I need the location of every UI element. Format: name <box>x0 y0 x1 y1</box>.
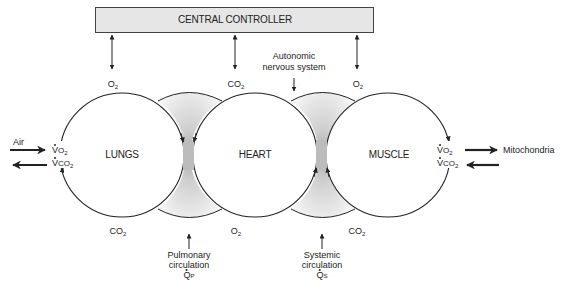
systemic-q: QS <box>302 270 343 281</box>
central-controller-label: CENTRAL CONTROLLER <box>178 15 292 25</box>
autonomic-label: Autonomic nervous system <box>262 51 325 73</box>
pulmonary-circulation-label: Pulmonary circulation QP <box>167 250 210 281</box>
bottom-gas-heart: O2 <box>231 226 241 236</box>
mitochondria-label: Mitochondria <box>503 145 555 155</box>
top-gas-heart: CO2 <box>228 79 245 89</box>
lungs-label: LUNGS <box>105 150 138 160</box>
air-label: Air <box>13 137 24 147</box>
systemic-circulation-label: Systemic circulation QS <box>302 250 343 281</box>
muscle-vco2-label: VCO2 <box>437 158 458 169</box>
bottom-gas-lungs: CO2 <box>110 226 127 236</box>
top-gas-muscle: O2 <box>353 79 363 89</box>
lungs-vo2-label: VO2 <box>52 145 68 156</box>
diagram-canvas <box>0 0 573 286</box>
pulmonary-q: QP <box>167 270 210 281</box>
top-gas-lungs: O2 <box>108 79 118 89</box>
autonomic-line1: Autonomic <box>262 51 325 62</box>
autonomic-line2: nervous system <box>262 62 325 73</box>
lungs-vco2-label: VCO2 <box>52 158 73 169</box>
bottom-gas-muscle: CO2 <box>349 226 366 236</box>
muscle-vo2-label: VO2 <box>437 145 453 156</box>
heart-label: HEART <box>239 150 272 160</box>
muscle-label: MUSCLE <box>369 150 409 160</box>
